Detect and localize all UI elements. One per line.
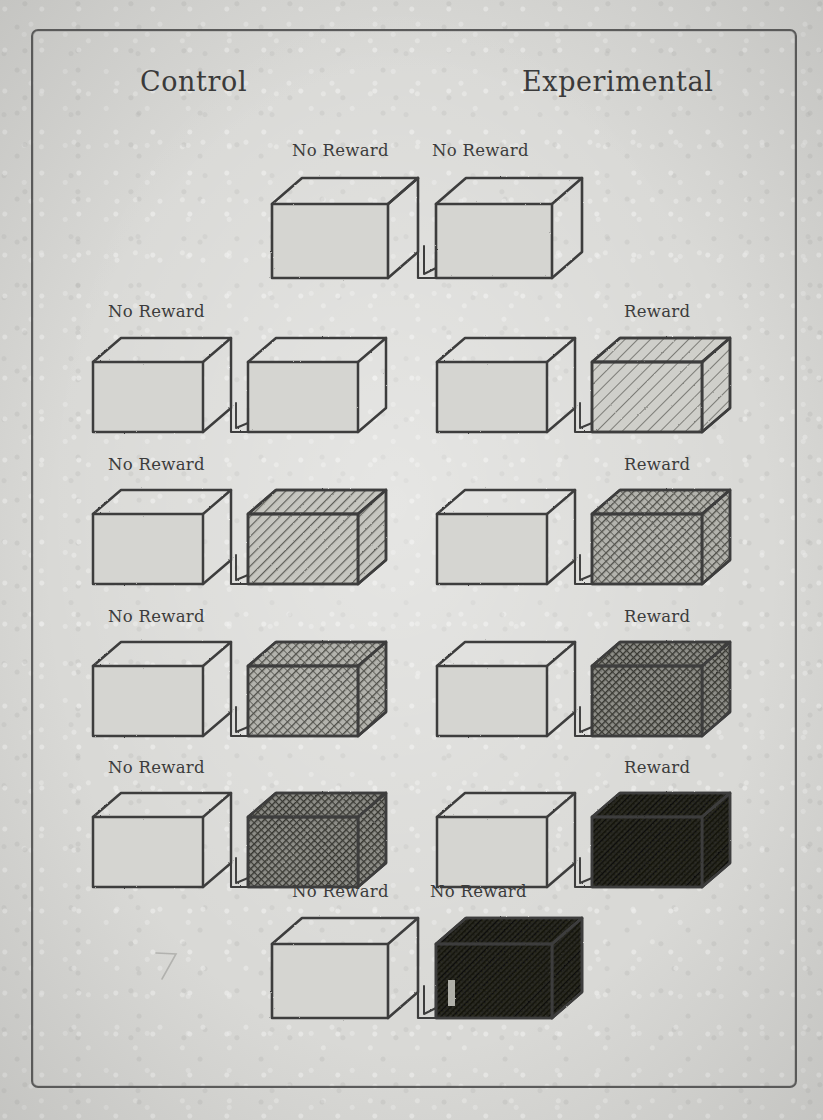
row3-label-control: No Reward (108, 455, 205, 474)
row4-label-control: No Reward (108, 607, 205, 626)
row6-label-left: No Reward (292, 882, 389, 901)
apparatus-row4-control (88, 632, 388, 754)
apparatus-row2-control (88, 328, 388, 450)
row5-label-control: No Reward (108, 758, 205, 777)
apparatus-row3-experimental (432, 480, 732, 602)
row6-label-right: No Reward (430, 882, 527, 901)
column-header-experimental: Experimental (522, 66, 714, 97)
apparatus-row2-experimental (432, 328, 732, 450)
column-header-control: Control (140, 66, 247, 97)
row4-label-experimental: Reward (624, 607, 690, 626)
row2-label-control: No Reward (108, 302, 205, 321)
apparatus-row1 (266, 168, 586, 294)
apparatus-row3-control (88, 480, 388, 602)
apparatus-row4-experimental (432, 632, 732, 754)
row1-label-right: No Reward (432, 141, 529, 160)
row3-label-experimental: Reward (624, 455, 690, 474)
row5-label-experimental: Reward (624, 758, 690, 777)
row2-label-experimental: Reward (624, 302, 690, 321)
apparatus-row6 (266, 908, 586, 1034)
figure-sheet: Control Experimental No Reward No Reward… (0, 0, 823, 1120)
row1-label-left: No Reward (292, 141, 389, 160)
